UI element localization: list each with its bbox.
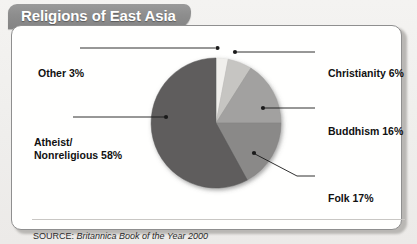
page-title: Religions of East Asia [21, 7, 176, 24]
label-atheist: Atheist/ Nonreligious 58% [34, 136, 122, 161]
chart-page: Religions of East Asia [0, 0, 417, 244]
label-folk: Folk 17% [328, 192, 374, 205]
pie-chart: Other 3% Atheist/ Nonreligious 58% Chris… [12, 26, 401, 229]
source-label: SOURCE: [33, 231, 74, 241]
pie-slices [151, 58, 281, 188]
label-buddhism: Buddhism 16% [328, 125, 403, 138]
footer-divider [32, 219, 405, 220]
leader-dot-christianity [233, 50, 237, 54]
source-title: Britannica Book of the Year 2000 [77, 231, 208, 241]
leader-dot-other [215, 46, 219, 50]
leader-dot-folk [252, 151, 256, 155]
chart-panel: Other 3% Atheist/ Nonreligious 58% Chris… [11, 25, 402, 230]
label-christianity: Christianity 6% [328, 67, 404, 80]
label-atheist-line2: Nonreligious 58% [34, 149, 122, 161]
label-other: Other 3% [38, 67, 84, 80]
leader-dot-atheist [164, 115, 168, 119]
label-atheist-line1: Atheist/ [34, 136, 73, 148]
leader-dot-buddhism [261, 106, 265, 110]
source-note: SOURCE: Britannica Book of the Year 2000 [33, 231, 208, 241]
